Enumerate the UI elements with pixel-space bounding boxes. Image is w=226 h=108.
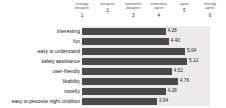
category-label: easy to understand (0, 46, 80, 56)
bar-value-label: 4.76 (178, 76, 189, 86)
category-label: interesting (0, 26, 80, 36)
bar (82, 28, 166, 35)
bar (82, 78, 178, 85)
category-label-row: safety aasistance (0, 56, 80, 66)
bar-value-label: 4.40 (169, 36, 180, 46)
bar (82, 48, 185, 55)
bar-row: 5.04 (82, 46, 226, 56)
bar-value-label: 3.94 (157, 96, 168, 106)
bar-row: 4.28 (82, 26, 226, 36)
category-label: easy to perceive night cindition (0, 96, 80, 106)
bar-value-label: 4.28 (166, 26, 177, 36)
bar-value-label: 4.28 (166, 86, 177, 96)
bar-row: 4.28 (82, 86, 226, 96)
category-label: fun (0, 36, 80, 46)
bar (82, 88, 166, 95)
category-axis: interestingfuneasy to understandsafety a… (0, 26, 80, 106)
likert-bar-chart: strongly disagree1disagree2somewhat disa… (0, 0, 226, 108)
category-label: novelty (0, 86, 80, 96)
bar-row: 5.12 (82, 56, 226, 66)
bar (82, 38, 169, 45)
bar-row: 4.52 (82, 66, 226, 76)
bar (82, 98, 157, 105)
category-label: safety aasistance (0, 56, 80, 66)
bar-series: 4.284.405.045.124.524.764.283.94 (82, 26, 226, 106)
category-label-row: easy to understand (0, 46, 80, 56)
scale-tick-label: strongly agree (193, 2, 226, 11)
category-label-row: likability (0, 76, 80, 86)
bar-row: 4.40 (82, 36, 226, 46)
category-label-row: fun (0, 36, 80, 46)
scale-tick-6: strongly agree6 (193, 2, 226, 19)
category-label-row: easy to perceive night cindition (0, 96, 80, 106)
category-label: user-friendly (0, 66, 80, 76)
scale-header: strongly disagree1disagree2somewhat disa… (0, 0, 226, 26)
category-label: likability (0, 76, 80, 86)
scale-tick-number: 6 (193, 13, 226, 19)
bar-row: 3.94 (82, 96, 226, 106)
bar-value-label: 5.12 (187, 56, 198, 66)
bar-value-label: 5.04 (185, 46, 196, 56)
category-label-row: user-friendly (0, 66, 80, 76)
bar-value-label: 4.52 (172, 66, 183, 76)
bar-row: 4.76 (82, 76, 226, 86)
bar (82, 58, 187, 65)
category-label-row: interesting (0, 26, 80, 36)
category-label-row: novelty (0, 86, 80, 96)
bar (82, 68, 172, 75)
